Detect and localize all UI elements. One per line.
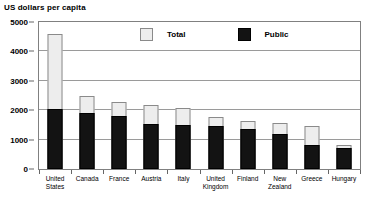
bar-stack[interactable] [240, 121, 255, 169]
x-tick-label-line: New [264, 175, 296, 183]
x-tick-mark [103, 170, 104, 174]
chart-legend: Total Public [140, 28, 289, 41]
bar-segment-public[interactable] [240, 129, 255, 169]
bar-stack[interactable] [48, 34, 63, 169]
x-tick-label: UnitedStates [39, 175, 71, 191]
x-tick-label: Italy [167, 175, 199, 183]
legend-entry-public: Public [238, 28, 289, 41]
x-tick-mark [200, 170, 201, 174]
x-tick-label-line: France [103, 175, 135, 183]
x-tick-label-line: Zealand [264, 183, 296, 191]
x-tick-mark [167, 170, 168, 174]
y-tick-label: 3000 [10, 76, 28, 85]
bar-segment-public[interactable] [272, 134, 287, 169]
x-tick-mark [360, 170, 361, 174]
x-tick-mark [39, 170, 40, 174]
bar-stack[interactable] [336, 145, 351, 169]
y-tick-label: 4000 [10, 47, 28, 56]
x-tick-label: UnitedKingdom [200, 175, 232, 191]
x-tick-mark [264, 170, 265, 174]
x-tick-mark [71, 170, 72, 174]
y-tick-mark [29, 110, 34, 111]
bar-group[interactable] [296, 22, 328, 169]
bar-group[interactable] [103, 22, 135, 169]
x-tick-label: France [103, 175, 135, 183]
page-title: US dollars per capita [4, 3, 86, 12]
x-tick-label-line: Italy [167, 175, 199, 183]
x-tick-label-line: Kingdom [200, 183, 232, 191]
public-swatch-icon [238, 28, 251, 41]
y-tick-label: 1000 [10, 135, 28, 144]
bar-group[interactable] [232, 22, 264, 169]
x-tick-mark [296, 170, 297, 174]
x-tick-label: Greece [296, 175, 328, 183]
y-tick-mark [29, 22, 34, 23]
x-tick-mark [135, 170, 136, 174]
bar-segment-public[interactable] [144, 124, 159, 169]
x-tick-label: NewZealand [264, 175, 296, 191]
x-tick-label-line: Austria [135, 175, 167, 183]
bar-stack[interactable] [80, 96, 95, 170]
legend-label-public: Public [265, 30, 289, 39]
bar-segment-public[interactable] [176, 125, 191, 169]
bar-stack[interactable] [272, 123, 287, 169]
x-tick-label: Hungary [328, 175, 360, 183]
y-tick-mark [29, 139, 34, 140]
bar-segment-public[interactable] [48, 109, 63, 169]
bar-group[interactable] [200, 22, 232, 169]
bar-group[interactable] [135, 22, 167, 169]
x-tick-label: Canada [71, 175, 103, 183]
y-axis: 010002000300040005000 [0, 21, 34, 170]
x-tick-mark [328, 170, 329, 174]
bar-group[interactable] [264, 22, 296, 169]
total-swatch-icon [140, 28, 153, 41]
bar-stack[interactable] [208, 117, 223, 169]
bar-segment-public[interactable] [80, 113, 95, 169]
x-tick-label: Finland [232, 175, 264, 183]
x-tick-label: Austria [135, 175, 167, 183]
bar-group[interactable] [71, 22, 103, 169]
bar-group[interactable] [39, 22, 71, 169]
legend-entry-total: Total [140, 28, 186, 41]
x-tick-label-line: United [200, 175, 232, 183]
bar-segment-public[interactable] [112, 116, 127, 169]
bar-stack[interactable] [304, 126, 319, 169]
y-tick-mark [29, 51, 34, 52]
x-tick-label-line: Canada [71, 175, 103, 183]
y-tick-mark [29, 80, 34, 81]
bar-series-layer [39, 22, 360, 169]
bar-group[interactable] [328, 22, 360, 169]
x-tick-label-line: United [39, 175, 71, 183]
y-tick-label: 2000 [10, 106, 28, 115]
x-tick-label-line: States [39, 183, 71, 191]
x-tick-label-line: Finland [232, 175, 264, 183]
x-axis: UnitedStatesCanadaFranceAustriaItalyUnit… [39, 175, 360, 205]
x-axis-ticks [39, 170, 360, 174]
bar-group[interactable] [167, 22, 199, 169]
x-tick-label-line: Hungary [328, 175, 360, 183]
bar-segment-public[interactable] [336, 148, 351, 169]
bar-stack[interactable] [144, 105, 159, 169]
legend-label-total: Total [167, 30, 186, 39]
bar-stack[interactable] [112, 102, 127, 169]
y-tick-label: 5000 [10, 18, 28, 27]
bar-segment-public[interactable] [208, 126, 223, 170]
bar-stack[interactable] [176, 108, 191, 169]
x-tick-label-line: Greece [296, 175, 328, 183]
bar-segment-public[interactable] [304, 145, 319, 169]
y-tick-mark [29, 169, 34, 170]
x-tick-mark [232, 170, 233, 174]
y-tick-label: 0 [24, 165, 28, 174]
